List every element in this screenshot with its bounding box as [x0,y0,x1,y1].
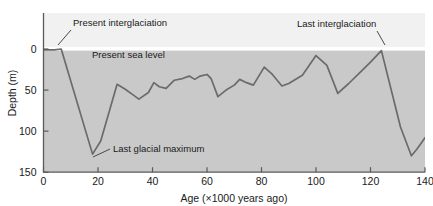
y-tick-label: 50 [25,84,37,96]
y-tick-label: 0 [31,43,37,55]
y-tick-label: 100 [19,125,37,137]
y-tick-label: 150 [19,166,37,178]
x-tick-label: 140 [416,175,433,187]
chart-svg: 050100150 020406080100120140 Depth (m) A… [0,0,433,206]
x-tick-label: 20 [92,175,104,187]
x-axis-title: Age (×1000 years ago) [180,192,287,204]
x-tick-label: 0 [41,175,47,187]
y-axis-title: Depth (m) [6,70,18,117]
sea-level-depth-chart: 050100150 020406080100120140 Depth (m) A… [0,0,433,206]
annotation-present-sea-level-label: Present sea level [92,49,165,60]
x-tick-label: 60 [201,175,213,187]
x-tick-label: 100 [307,175,325,187]
annotation-present-interglaciation-label: Present interglaciation [73,17,167,28]
x-tick-label: 80 [256,175,268,187]
x-tick-label: 40 [147,175,159,187]
x-tick-label: 120 [362,175,380,187]
annotation-last-glacial-maximum-label: Last glacial maximum [113,143,204,154]
annotation-last-interglaciation-label: Last interglaciation [297,18,376,29]
